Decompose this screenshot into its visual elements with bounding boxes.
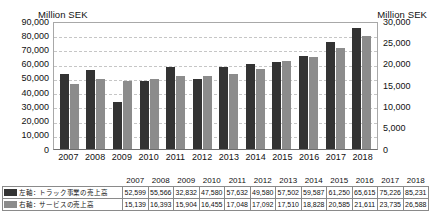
x-axis-label: 2017 — [323, 151, 350, 164]
bar-group — [242, 23, 269, 149]
bar-group — [215, 23, 242, 149]
bar-secondary — [282, 61, 291, 149]
table-cell: 16,455 — [199, 199, 225, 211]
secondary-color-swatch — [4, 201, 17, 208]
bar-secondary — [96, 79, 105, 149]
legend-secondary: 右軸：サービスの売上高 — [3, 199, 123, 211]
x-axis-label: 2015 — [269, 151, 296, 164]
left-axis-tick: 60,000 — [21, 60, 49, 69]
bar-group — [322, 23, 349, 149]
bar-primary — [246, 64, 255, 149]
bar-group — [295, 23, 322, 149]
bar-group — [269, 23, 296, 149]
right-axis-tick-labels: 30,00025,00020,00015,00010,0005,0000 — [379, 22, 429, 150]
left-axis-tick: 30,000 — [21, 103, 49, 112]
bar-primary — [140, 81, 149, 149]
left-axis-tick: 40,000 — [21, 89, 49, 98]
chart-area: 90,00080,00070,00060,00050,00040,00030,0… — [0, 22, 431, 164]
table-header-year: 2017 — [378, 176, 404, 187]
bar-secondary — [70, 84, 79, 149]
primary-color-swatch — [4, 189, 17, 196]
legend-primary-label: 左軸：トラック事業の売上高 — [19, 189, 107, 197]
bar-group — [348, 23, 375, 149]
right-axis-tick: 10,000 — [383, 103, 411, 112]
bar-groups — [54, 23, 377, 149]
table-cell: 18,828 — [301, 199, 327, 211]
table-cell: 16,393 — [148, 199, 174, 211]
left-axis-tick: 0 — [44, 146, 49, 155]
right-axis-tick: 25,000 — [383, 39, 411, 48]
table-row: 左軸：トラック事業の売上高 52,59955,56632,83247,58057… — [3, 187, 429, 199]
table-header-year: 2009 — [174, 176, 200, 187]
table-header-year: 2012 — [250, 176, 276, 187]
table-header-year: 2014 — [301, 176, 327, 187]
x-axis-label: 2011 — [162, 151, 189, 164]
bar-group — [189, 23, 216, 149]
x-axis-label: 2007 — [55, 151, 82, 164]
table-header-year: 2018 — [403, 176, 429, 187]
table-corner-cell — [3, 176, 123, 187]
chart-page: Million SEK Million SEK 90,00080,00070,0… — [0, 0, 431, 211]
table-cell: 26,588 — [403, 199, 429, 211]
table-cell: 65,615 — [352, 187, 378, 199]
bar-primary — [60, 74, 69, 149]
bar-secondary — [203, 76, 212, 149]
bar-group — [136, 23, 163, 149]
bar-primary — [86, 70, 95, 149]
x-axis-label: 2018 — [349, 151, 376, 164]
table-header-year: 2010 — [199, 176, 225, 187]
bar-primary — [166, 67, 175, 149]
table-cell: 17,510 — [276, 199, 302, 211]
table-cell: 75,226 — [378, 187, 404, 199]
table-header-year: 2016 — [352, 176, 378, 187]
bar-primary — [113, 102, 122, 149]
x-axis-label: 2010 — [135, 151, 162, 164]
table-cell: 17,092 — [250, 199, 276, 211]
legend-primary: 左軸：トラック事業の売上高 — [3, 187, 123, 199]
bar-secondary — [362, 36, 371, 149]
bar-secondary — [336, 48, 345, 149]
right-axis-tick: 20,000 — [383, 60, 411, 69]
left-axis-tick: 90,000 — [21, 18, 49, 27]
left-axis-tick: 70,000 — [21, 46, 49, 55]
table-cell: 57,632 — [225, 187, 251, 199]
bar-primary — [299, 56, 308, 149]
bar-group — [162, 23, 189, 149]
table-cell: 17,048 — [225, 199, 251, 211]
x-axis-label: 2016 — [296, 151, 323, 164]
table-header-year: 2011 — [225, 176, 251, 187]
left-axis-tick-labels: 90,00080,00070,00060,00050,00040,00030,0… — [0, 22, 52, 150]
x-axis-label: 2009 — [109, 151, 136, 164]
bar-primary — [219, 67, 228, 149]
bar-group — [56, 23, 83, 149]
bar-secondary — [176, 76, 185, 149]
x-axis-category-labels: 2007200820092010201120122013201420152016… — [53, 151, 378, 164]
table-header-year: 2013 — [276, 176, 302, 187]
right-axis-tick: 0 — [383, 146, 388, 155]
x-axis-label: 2012 — [189, 151, 216, 164]
left-axis-tick: 50,000 — [21, 74, 49, 83]
table-cell: 15,139 — [123, 199, 149, 211]
bar-primary — [193, 79, 202, 150]
bar-secondary — [309, 57, 318, 149]
left-axis-tick: 10,000 — [21, 131, 49, 140]
right-axis-tick: 30,000 — [383, 18, 411, 27]
bar-secondary — [123, 81, 132, 149]
table-cell: 57,502 — [276, 187, 302, 199]
table-cell: 59,587 — [301, 187, 327, 199]
x-axis-label: 2014 — [242, 151, 269, 164]
table-cell: 32,832 — [174, 187, 200, 199]
table-row-years: 2007200820092010201120122013201420152016… — [3, 176, 429, 187]
plot-area — [53, 22, 378, 150]
bar-secondary — [150, 79, 159, 149]
table-cell: 15,904 — [174, 199, 200, 211]
table-cell: 49,580 — [250, 187, 276, 199]
right-axis-tick: 5,000 — [383, 124, 406, 133]
table-cell: 52,599 — [123, 187, 149, 199]
bar-secondary — [229, 74, 238, 149]
data-table: 2007200820092010201120122013201420152016… — [2, 176, 429, 211]
table-cell: 61,250 — [327, 187, 353, 199]
table-header-year: 2008 — [148, 176, 174, 187]
x-axis-label: 2013 — [216, 151, 243, 164]
table-cell: 23,735 — [378, 199, 404, 211]
